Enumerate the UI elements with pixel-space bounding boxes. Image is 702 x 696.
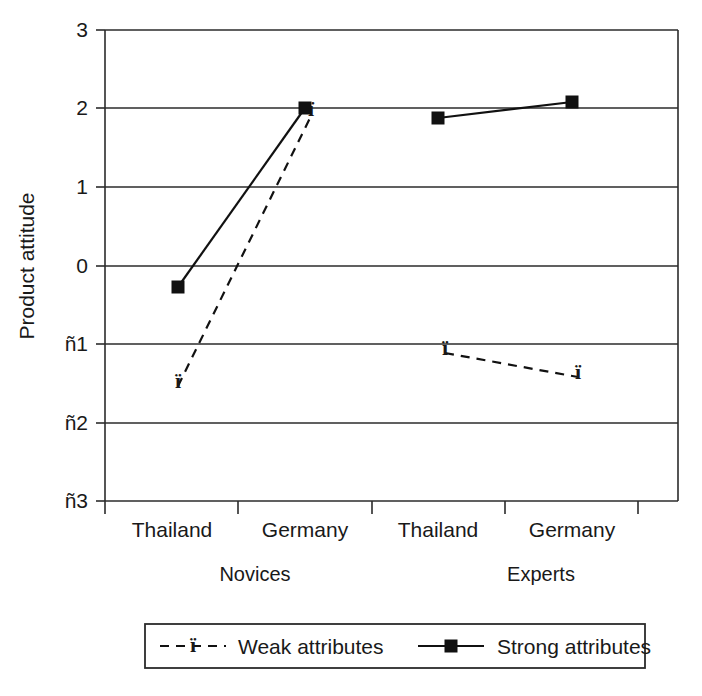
y-axis-title: Product attitude xyxy=(15,192,38,339)
group-label-experts: Experts xyxy=(507,563,575,585)
legend-strong-label: Strong attributes xyxy=(497,635,651,658)
strong-marker-experts-germany xyxy=(566,96,578,108)
xtick-label-experts-thailand: Thailand xyxy=(398,518,479,541)
legend-weak-marker: ï xyxy=(190,632,197,657)
legend-weak-label: Weak attributes xyxy=(238,635,384,658)
legend-entry-weak-attributes: ï Weak attributes xyxy=(160,632,384,658)
strong-marker-novices-thailand xyxy=(172,281,184,293)
xtick-label-novices-germany: Germany xyxy=(262,518,349,541)
strong-marker-experts-thailand xyxy=(432,112,444,124)
group-label-novices: Novices xyxy=(219,563,290,585)
chart-figure: 3 2 1 0 ñ1 ñ2 ñ3 Product attitude Thaila… xyxy=(0,0,702,696)
xtick-label-experts-germany: Germany xyxy=(529,518,616,541)
weak-marker-experts-germany: ï xyxy=(575,359,582,384)
ytick-label-minus-1: ñ1 xyxy=(65,332,88,355)
weak-marker-novices-thailand: ï xyxy=(175,368,182,393)
strong-marker-novices-germany xyxy=(299,102,311,114)
ytick-label-0: 0 xyxy=(76,254,88,277)
product-attitude-line-chart: 3 2 1 0 ñ1 ñ2 ñ3 Product attitude Thaila… xyxy=(0,0,702,696)
ytick-label-2: 2 xyxy=(76,96,88,119)
xtick-label-novices-thailand: Thailand xyxy=(132,518,213,541)
chart-legend: ï Weak attributes Strong attributes xyxy=(145,624,651,668)
weak-marker-experts-thailand: ï xyxy=(442,335,449,360)
ytick-label-minus-3: ñ3 xyxy=(65,489,88,512)
ytick-label-1: 1 xyxy=(76,175,88,198)
ytick-label-minus-2: ñ2 xyxy=(65,411,88,434)
ytick-label-3: 3 xyxy=(76,18,88,41)
legend-strong-marker xyxy=(445,640,457,652)
